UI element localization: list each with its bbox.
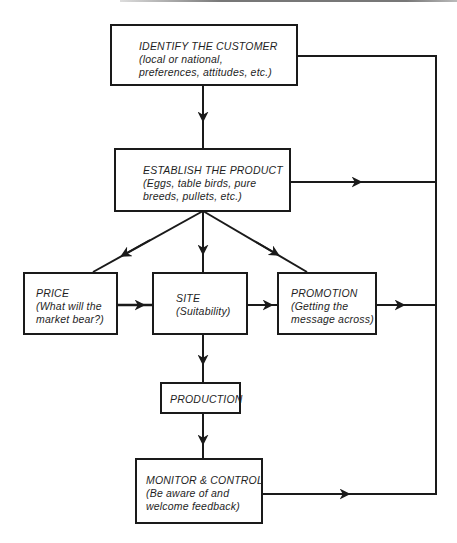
node-detail: (What will the [36,300,116,313]
node-detail: (Be aware of and [146,487,261,500]
node-detail: message across) [291,313,375,326]
arrow-establish-promotion [256,242,275,253]
node-price: PRICE (What will the market bear?) [23,272,118,335]
node-detail: (Getting the [291,300,375,313]
node-detail: breeds, pullets, etc.) [143,190,289,203]
node-establish-product: ESTABLISH THE PRODUCT (Eggs, table birds… [114,148,291,212]
node-title: PRICE [36,287,116,300]
node-identify-customer: IDENTIFY THE CUSTOMER (local or national… [110,24,298,86]
node-title: PRODUCTION [170,393,239,406]
node-detail: preferences, attitudes, etc.) [139,66,296,79]
node-title: PROMOTION [291,287,375,300]
arrow-establish-price [125,240,150,254]
node-title: SITE [176,292,246,305]
node-detail: (Eggs, table birds, pure [143,177,289,190]
node-title: ESTABLISH THE PRODUCT [143,164,289,177]
connector-establish-promotion [203,211,307,272]
node-monitor-control: MONITOR & CONTROL (Be aware of and welco… [135,458,263,524]
node-detail: welcome feedback) [146,500,261,513]
node-detail: (Suitability) [176,305,246,318]
node-title: MONITOR & CONTROL [146,474,261,487]
node-title: IDENTIFY THE CUSTOMER [139,40,296,53]
node-production: PRODUCTION [160,382,241,414]
marketing-flowchart: IDENTIFY THE CUSTOMER (local or national… [0,0,457,543]
node-detail: market bear?) [36,313,116,326]
node-detail: (local or national, [139,53,296,66]
node-promotion: PROMOTION (Getting the message across) [277,272,377,335]
node-site: SITE (Suitability) [152,272,248,335]
